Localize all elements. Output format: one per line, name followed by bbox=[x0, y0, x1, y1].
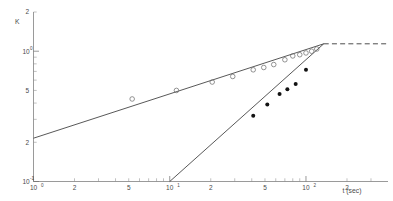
data-point-filled bbox=[265, 102, 269, 106]
y-tick-exponent: 0 bbox=[30, 46, 33, 51]
x-tick-label: 2 bbox=[209, 184, 213, 191]
data-point-open bbox=[297, 52, 302, 57]
data-point-open bbox=[283, 57, 288, 62]
x-tick-label: 5 bbox=[263, 184, 267, 191]
y-tick-label: 2 bbox=[25, 139, 29, 146]
y-tick-label: 5 bbox=[25, 87, 29, 94]
x-tick-label: 2 bbox=[73, 184, 77, 191]
data-point-filled bbox=[304, 68, 308, 72]
data-point-open bbox=[251, 68, 256, 73]
axis-lines bbox=[34, 12, 389, 182]
y-axis-title: K bbox=[15, 18, 20, 25]
x-axis-title: t (sec) bbox=[343, 187, 362, 195]
x-tick-label: 10 bbox=[302, 184, 310, 191]
data-points bbox=[130, 47, 319, 118]
data-point-filled bbox=[278, 92, 282, 96]
data-point-open bbox=[261, 65, 266, 70]
data-point-filled bbox=[251, 114, 255, 118]
x-axis-ticks: 10025101251022 bbox=[30, 176, 371, 191]
log-log-scatter-chart: 10025101251022 10-1251002 K t (sec) bbox=[0, 0, 393, 201]
x-tick-exponent: 0 bbox=[41, 183, 44, 188]
plot-canvas: 10025101251022 10-1251002 K t (sec) bbox=[0, 0, 393, 201]
x-tick-label: 5 bbox=[127, 184, 131, 191]
data-point-open bbox=[230, 74, 235, 79]
data-point-open bbox=[304, 51, 309, 56]
y-tick-label: 2 bbox=[25, 8, 29, 15]
y-tick-exponent: -1 bbox=[30, 176, 35, 181]
x-tick-exponent: 2 bbox=[313, 183, 316, 188]
data-point-filled bbox=[285, 87, 289, 91]
data-point-filled bbox=[294, 82, 298, 86]
x-tick-exponent: 1 bbox=[177, 183, 180, 188]
y-axis-ticks: 10-1251002 bbox=[23, 8, 40, 185]
data-point-open bbox=[271, 62, 276, 67]
x-tick-label: 10 bbox=[30, 184, 38, 191]
x-tick-label: 10 bbox=[166, 184, 174, 191]
data-point-open bbox=[130, 97, 135, 102]
data-point-open bbox=[309, 49, 314, 54]
data-point-open bbox=[290, 54, 295, 59]
fit-lines bbox=[34, 44, 389, 182]
steep-fit-line bbox=[170, 44, 324, 182]
